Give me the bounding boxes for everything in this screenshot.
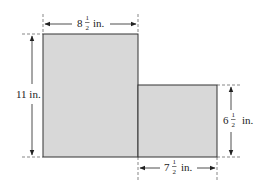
top-width-num: 1 bbox=[86, 14, 90, 22]
top-width-den: 2 bbox=[86, 24, 90, 32]
bottom-width-den: 2 bbox=[173, 168, 177, 176]
right-height-den: 2 bbox=[232, 121, 236, 129]
bottom-width-dimension: 7 1 2 in. bbox=[140, 158, 215, 176]
left-height-dimension: 11 in. bbox=[16, 36, 41, 155]
left-rectangle bbox=[43, 34, 138, 157]
top-width-whole: 8 bbox=[77, 17, 83, 29]
composite-figure-diagram: 8 1 2 in. 11 in. 6 1 2 in. 7 1 2 in. bbox=[0, 0, 266, 191]
right-height-num: 1 bbox=[232, 111, 236, 119]
bottom-width-whole: 7 bbox=[164, 161, 170, 173]
right-height-dimension: 6 1 2 in. bbox=[223, 87, 254, 155]
right-height-whole: 6 bbox=[223, 114, 229, 126]
right-height-unit: in. bbox=[242, 114, 254, 126]
right-rectangle bbox=[138, 85, 217, 157]
bottom-width-unit: in. bbox=[181, 161, 193, 173]
left-height-label: 11 in. bbox=[16, 88, 41, 100]
top-width-dimension: 8 1 2 in. bbox=[45, 14, 136, 32]
top-width-unit: in. bbox=[93, 17, 105, 29]
bottom-width-num: 1 bbox=[173, 158, 177, 166]
